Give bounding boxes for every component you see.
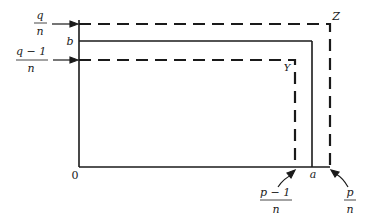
label-b: b: [66, 35, 73, 48]
solid-rectangle: [79, 20, 330, 167]
dashed-rectangle-y: [79, 60, 295, 167]
arrow-p-over-n: [331, 170, 348, 187]
label-q-minus-1-over-n-num: q − 1: [16, 45, 46, 58]
arrow-q-minus-1-over-n: [53, 57, 78, 63]
label-Z: Z: [331, 10, 340, 23]
label-p-minus-1-over-n-den: n: [272, 203, 279, 216]
arrow-p-minus-1-over-n: [278, 170, 295, 187]
dashed-rectangle-z: [79, 24, 330, 167]
rectangle-grid-diagram: q n q − 1 n b Y Z 0 a p − 1 n p n: [0, 0, 366, 222]
label-q-minus-1-over-n-den: n: [27, 62, 34, 75]
label-origin: 0: [72, 169, 79, 182]
label-p-over-n-num: p: [346, 186, 353, 199]
label-p-over-n-den: n: [346, 203, 353, 216]
label-q-over-n-num: q: [36, 9, 43, 22]
label-Y: Y: [284, 62, 292, 73]
label-q-over-n-den: n: [36, 25, 43, 38]
arrow-q-over-n: [52, 21, 78, 27]
label-p-minus-1-over-n-num: p − 1: [260, 186, 290, 199]
label-a: a: [310, 168, 317, 181]
